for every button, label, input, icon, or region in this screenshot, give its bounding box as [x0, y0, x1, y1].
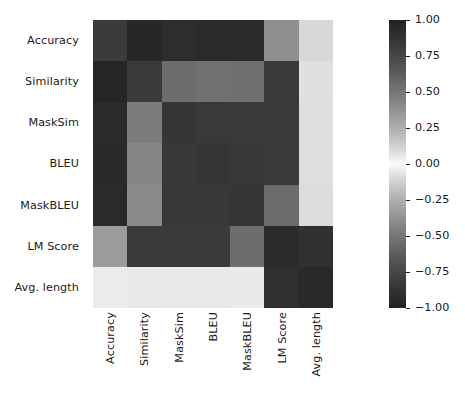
heatmap-cell	[299, 61, 333, 102]
colorbar-tick-text: 0.75	[415, 50, 440, 61]
colorbar-tick-mark	[406, 92, 410, 93]
heatmap-cell	[127, 143, 161, 184]
x-tick-slot: MaskBLEU	[230, 308, 264, 395]
x-tick-slot: Similarity	[127, 308, 161, 395]
heatmap-cell	[93, 143, 127, 184]
colorbar-tick-text: 0.50	[415, 86, 440, 97]
x-tick-label: LM Score	[275, 312, 288, 364]
colorbar-gradient	[389, 20, 406, 308]
heatmap-cell	[93, 20, 127, 61]
y-tick-label: Similarity	[0, 61, 86, 102]
x-tick-slot: BLEU	[196, 308, 230, 395]
x-tick-label: MaskBLEU	[241, 312, 254, 371]
colorbar-tick-mark	[406, 272, 410, 273]
heatmap-cell	[93, 226, 127, 267]
heatmap-cell	[299, 102, 333, 143]
heatmap-cell	[264, 20, 298, 61]
heatmap-cell	[127, 102, 161, 143]
colorbar-tick-mark	[406, 164, 410, 165]
heatmap-cell	[162, 226, 196, 267]
heatmap-cell	[196, 20, 230, 61]
x-tick-slot: Avg. length	[299, 308, 333, 395]
heatmap-cell	[230, 226, 264, 267]
x-tick-label: BLEU	[206, 312, 219, 342]
colorbar-tick-labels: 1.000.750.500.250.00−0.25−0.50−0.75−1.00	[406, 20, 465, 308]
y-axis-tick-labels: Accuracy Similarity MaskSim BLEU MaskBLE…	[0, 20, 86, 308]
colorbar-tick-text: 0.00	[415, 158, 440, 169]
heatmap-cell	[299, 143, 333, 184]
heatmap-cell	[264, 185, 298, 226]
colorbar-tick-text: 0.25	[415, 122, 440, 133]
heatmap-cell	[127, 61, 161, 102]
heatmap-cell	[230, 102, 264, 143]
y-tick-label: Avg. length	[0, 267, 86, 308]
heatmap-cell	[127, 20, 161, 61]
y-tick-label: MaskSim	[0, 102, 86, 143]
heatmap-cell	[230, 61, 264, 102]
y-tick-label: MaskBLEU	[0, 185, 86, 226]
colorbar-tick-mark	[406, 56, 410, 57]
colorbar-tick-text: −0.50	[415, 230, 449, 241]
heatmap-cell	[299, 20, 333, 61]
x-tick-slot: Accuracy	[93, 308, 127, 395]
heatmap-cell	[196, 267, 230, 308]
heatmap-cell	[230, 185, 264, 226]
x-tick-label: MaskSim	[172, 312, 185, 363]
heatmap-grid	[93, 20, 333, 308]
heatmap-cell	[264, 267, 298, 308]
x-axis-tick-labels: Accuracy Similarity MaskSim BLEU MaskBLE…	[93, 308, 333, 395]
y-tick-label: Accuracy	[0, 20, 86, 61]
heatmap-cell	[299, 185, 333, 226]
heatmap-cell	[127, 267, 161, 308]
colorbar-tick-mark	[406, 20, 410, 21]
colorbar-tick-mark	[406, 200, 410, 201]
heatmap-cell	[93, 102, 127, 143]
heatmap-cell	[162, 20, 196, 61]
x-tick-slot: MaskSim	[162, 308, 196, 395]
heatmap-cell	[162, 61, 196, 102]
heatmap-cell	[162, 102, 196, 143]
heatmap-cell	[230, 20, 264, 61]
heatmap-cell	[264, 102, 298, 143]
heatmap-cell	[196, 61, 230, 102]
y-tick-label: BLEU	[0, 143, 86, 184]
x-tick-slot: LM Score	[264, 308, 298, 395]
heatmap-cell	[196, 226, 230, 267]
heatmap-plot-area	[93, 20, 333, 308]
heatmap-cell	[93, 61, 127, 102]
heatmap-cell	[127, 185, 161, 226]
heatmap-cell	[264, 61, 298, 102]
colorbar-tick-text: 1.00	[415, 14, 440, 25]
heatmap-cell	[264, 226, 298, 267]
heatmap-cell	[162, 143, 196, 184]
heatmap-cell	[264, 143, 298, 184]
colorbar-tick-text: −0.75	[415, 266, 449, 277]
heatmap-cell	[93, 185, 127, 226]
x-tick-label: Accuracy	[104, 312, 117, 364]
heatmap-cell	[230, 267, 264, 308]
heatmap-cell	[196, 102, 230, 143]
x-tick-label: Avg. length	[309, 312, 322, 377]
colorbar-tick-mark	[406, 308, 410, 309]
x-tick-label: Similarity	[138, 312, 151, 366]
colorbar-tick-mark	[406, 236, 410, 237]
colorbar-tick-text: −1.00	[415, 302, 449, 313]
heatmap-cell	[196, 143, 230, 184]
heatmap-cell	[230, 143, 264, 184]
heatmap-cell	[93, 267, 127, 308]
heatmap-cell	[299, 267, 333, 308]
heatmap-cell	[127, 226, 161, 267]
colorbar: 1.000.750.500.250.00−0.25−0.50−0.75−1.00	[389, 20, 406, 308]
colorbar-tick-mark	[406, 128, 410, 129]
y-tick-label: LM Score	[0, 226, 86, 267]
heatmap-cell	[299, 226, 333, 267]
heatmap-cell	[162, 185, 196, 226]
heatmap-cell	[196, 185, 230, 226]
heatmap-cell	[162, 267, 196, 308]
colorbar-tick-text: −0.25	[415, 194, 449, 205]
heatmap-figure: Accuracy Similarity MaskSim BLEU MaskBLE…	[0, 0, 465, 395]
